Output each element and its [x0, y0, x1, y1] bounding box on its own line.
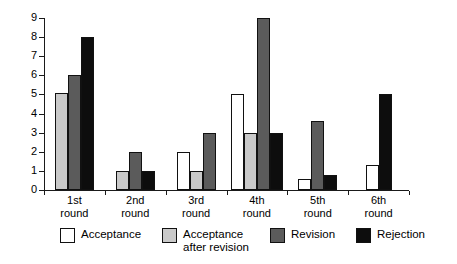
y-tick-label-6: 6	[17, 69, 37, 80]
legend-item-acceptance[interactable]: Acceptance	[60, 228, 141, 243]
y-tick-label-8: 8	[17, 31, 37, 42]
bar-group-2	[116, 18, 155, 190]
y-tick-label-2: 2	[17, 146, 37, 157]
legend-swatch-acceptance	[60, 228, 75, 243]
bar-acceptance-revision-group-2	[116, 171, 129, 190]
bar-group-4	[231, 18, 283, 190]
bar-chart-figure: 0123456789 1st round2nd round3rd round4t…	[0, 0, 457, 264]
x-axis-label-1: 1st round	[39, 194, 109, 219]
bar-rejection-group-1	[81, 37, 94, 190]
bar-group-3	[177, 18, 216, 190]
x-axis-label-6: 6th round	[344, 194, 414, 219]
bar-group-1	[55, 18, 94, 190]
bar-rejection-group-5	[324, 175, 337, 190]
y-tick-3	[39, 133, 44, 134]
y-tick-label-9: 9	[17, 12, 37, 23]
y-tick-label-7: 7	[17, 50, 37, 61]
y-tick-1	[39, 171, 44, 172]
bar-revision-group-5	[311, 121, 324, 190]
x-axis-label-5: 5th round	[283, 194, 353, 219]
legend-swatch-revision	[270, 228, 285, 243]
y-axis-line	[44, 18, 45, 190]
chart-legend: AcceptanceAcceptance after revisionRevis…	[60, 228, 446, 254]
legend-swatch-rejection	[356, 228, 371, 243]
legend-label-acceptance: Acceptance	[81, 228, 141, 241]
bar-group-6	[366, 18, 392, 190]
legend-label-acceptance-revision: Acceptance after revision	[183, 228, 249, 254]
y-tick-6	[39, 75, 44, 76]
y-tick-label-0: 0	[17, 184, 37, 195]
bar-rejection-group-6	[379, 94, 392, 190]
legend-swatch-acceptance-revision	[162, 228, 177, 243]
y-tick-7	[39, 56, 44, 57]
x-axis-label-4: 4th round	[222, 194, 292, 219]
bar-group-5	[298, 18, 337, 190]
bar-rejection-group-2	[142, 171, 155, 190]
bar-acceptance-group-6	[366, 165, 379, 190]
bar-acceptance-revision-group-3	[190, 171, 203, 190]
legend-item-rejection[interactable]: Rejection	[356, 228, 425, 243]
legend-item-acceptance-after-revision[interactable]: Acceptance after revision	[162, 228, 249, 254]
x-axis-label-3: 3rd round	[161, 194, 231, 219]
legend-label-rejection: Rejection	[377, 228, 425, 241]
legend-item-revision[interactable]: Revision	[270, 228, 335, 243]
bar-acceptance-group-4	[231, 94, 244, 190]
bar-acceptance-group-5	[298, 179, 311, 190]
y-tick-9	[39, 18, 44, 19]
plot-area: 0123456789 1st round2nd round3rd round4t…	[44, 18, 409, 190]
y-tick-4	[39, 114, 44, 115]
bar-revision-group-4	[257, 18, 270, 190]
y-tick-8	[39, 37, 44, 38]
bar-revision-group-3	[203, 133, 216, 190]
bar-revision-group-1	[68, 75, 81, 190]
bar-acceptance-group-3	[177, 152, 190, 190]
y-tick-label-3: 3	[17, 127, 37, 138]
bar-acceptance-revision-group-4	[244, 133, 257, 190]
y-tick-label-5: 5	[17, 88, 37, 99]
bar-revision-group-2	[129, 152, 142, 190]
bar-rejection-group-4	[270, 133, 283, 190]
legend-label-revision: Revision	[291, 228, 335, 241]
y-tick-2	[39, 152, 44, 153]
bar-acceptance-revision-group-1	[55, 93, 68, 190]
y-tick-label-1: 1	[17, 165, 37, 176]
y-tick-label-4: 4	[17, 108, 37, 119]
y-tick-5	[39, 94, 44, 95]
x-axis-label-2: 2nd round	[100, 194, 170, 219]
